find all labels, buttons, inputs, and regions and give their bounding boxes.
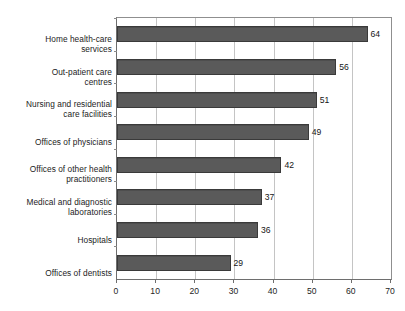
x-axis-tick xyxy=(194,279,195,283)
category-axis-labels: Home health-care services Out-patient ca… xyxy=(0,17,112,278)
bar xyxy=(117,124,309,140)
category-axis-tick xyxy=(114,149,117,150)
x-axis-tick xyxy=(233,279,234,283)
x-axis-tick xyxy=(312,279,313,283)
bar-value-label: 29 xyxy=(234,258,244,268)
plot-area: 6456514942373629 xyxy=(116,17,392,280)
category-label: Out-patient care centres xyxy=(0,67,112,87)
category-axis-tick xyxy=(114,181,117,182)
bar xyxy=(117,255,231,271)
x-axis-ticks xyxy=(116,279,392,284)
bar xyxy=(117,59,336,75)
bar xyxy=(117,189,262,205)
category-label: Medical and diagnostic laboratories xyxy=(0,197,112,217)
category-label: Home health-care services xyxy=(0,34,112,54)
bar-value-label: 51 xyxy=(320,95,330,105)
bar xyxy=(117,92,317,108)
category-axis-tick xyxy=(114,18,117,19)
x-axis-tick xyxy=(273,279,274,283)
x-axis-tick-label: 30 xyxy=(229,286,239,296)
x-axis-tick-label: 60 xyxy=(346,286,356,296)
x-axis-tick-label: 0 xyxy=(114,286,119,296)
category-axis-tick xyxy=(114,246,117,247)
bars-layer: 6456514942373629 xyxy=(117,18,391,279)
category-axis-tick xyxy=(114,83,117,84)
x-axis-tick xyxy=(155,279,156,283)
x-axis-tick-label: 20 xyxy=(190,286,200,296)
x-axis-tick-label: 10 xyxy=(150,286,160,296)
bar-value-label: 37 xyxy=(265,192,275,202)
category-label: Hospitals xyxy=(0,235,112,245)
x-axis-tick xyxy=(351,279,352,283)
x-axis-tick xyxy=(116,279,117,283)
x-axis-tick-label: 50 xyxy=(307,286,317,296)
bar-value-label: 42 xyxy=(284,160,294,170)
bar-value-label: 56 xyxy=(339,62,349,72)
bar-value-label: 49 xyxy=(312,127,322,137)
category-axis-tick xyxy=(114,214,117,215)
bar xyxy=(117,26,368,42)
x-axis-tick-labels: 010203040506070 xyxy=(0,286,405,300)
x-axis-tick-label: 70 xyxy=(385,286,395,296)
category-label: Offices of physicians xyxy=(0,137,112,147)
category-axis-tick xyxy=(114,51,117,52)
category-label: Nursing and residential care facilities xyxy=(0,99,112,119)
bar-value-label: 36 xyxy=(261,225,271,235)
bar-chart: Home health-care services Out-patient ca… xyxy=(0,0,405,311)
bar xyxy=(117,157,281,173)
category-label: Offices of dentists xyxy=(0,268,112,278)
category-axis-tick xyxy=(114,116,117,117)
x-axis-tick xyxy=(390,279,391,283)
category-label: Offices of other health practitioners xyxy=(0,164,112,184)
bar-value-label: 64 xyxy=(371,29,381,39)
x-axis-tick-label: 40 xyxy=(268,286,278,296)
bar xyxy=(117,222,258,238)
